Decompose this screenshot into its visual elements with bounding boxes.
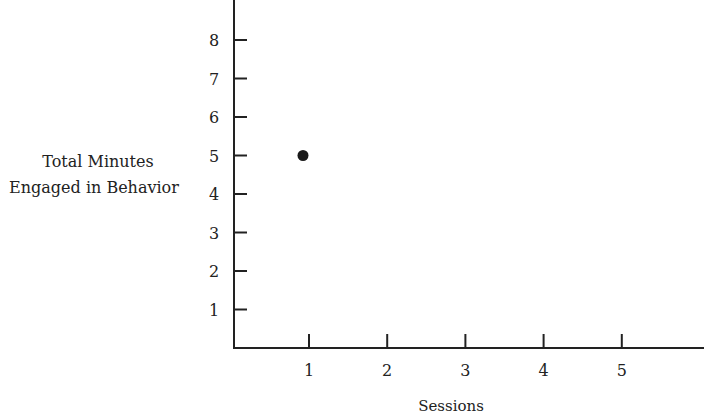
x-tick: 4 — [539, 334, 549, 380]
y-tick: 4 — [209, 185, 247, 204]
y-tick: 3 — [209, 224, 247, 243]
y-axis-label-line1: Total Minutes — [42, 152, 153, 171]
chart: 12345678 12345 Total Minutes Engaged in … — [0, 0, 706, 414]
x-tick-label: 1 — [304, 361, 314, 380]
x-tick: 3 — [460, 334, 470, 380]
data-points — [298, 150, 309, 161]
y-tick-label: 6 — [209, 108, 219, 127]
y-tick: 6 — [209, 108, 247, 127]
y-tick: 7 — [209, 70, 247, 89]
y-axis: 12345678 — [209, 0, 247, 348]
y-tick: 8 — [209, 31, 247, 50]
x-tick: 2 — [382, 334, 392, 380]
y-tick: 2 — [209, 262, 247, 281]
x-tick-label: 5 — [617, 361, 627, 380]
y-tick-label: 5 — [209, 147, 219, 166]
x-tick: 5 — [617, 334, 627, 380]
data-point — [298, 150, 309, 161]
y-tick-label: 2 — [209, 262, 219, 281]
y-axis-label-line2: Engaged in Behavior — [9, 178, 179, 197]
y-tick-label: 3 — [209, 224, 219, 243]
x-axis: 12345 — [233, 334, 704, 380]
x-tick: 1 — [304, 334, 314, 380]
y-tick: 1 — [209, 301, 247, 320]
y-tick-label: 4 — [209, 185, 219, 204]
y-tick-label: 1 — [209, 301, 219, 320]
x-tick-label: 2 — [382, 361, 392, 380]
y-tick-label: 7 — [209, 70, 219, 89]
x-axis-label: Sessions — [418, 397, 484, 414]
x-tick-label: 3 — [460, 361, 470, 380]
y-tick-label: 8 — [209, 31, 219, 50]
y-tick: 5 — [209, 147, 247, 166]
x-tick-label: 4 — [539, 361, 549, 380]
